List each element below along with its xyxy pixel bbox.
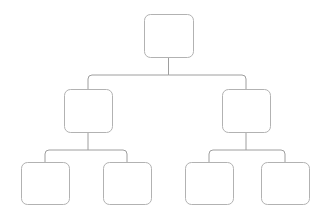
node-leaf-2-box[interactable]	[104, 163, 152, 205]
connector-root-to-level2-left	[88, 75, 169, 89]
connector-level2-right-to-leaf-3	[209, 150, 246, 162]
connector-level2-left-to-leaf-2	[88, 150, 127, 162]
node-level2-right-box[interactable]	[223, 90, 271, 133]
connector-level2-right-to-leaf-4	[246, 150, 285, 162]
connector-level2-left-to-leaf-1	[45, 150, 88, 162]
node-leaf-1[interactable]	[22, 163, 70, 205]
tree-diagram	[0, 0, 323, 217]
node-leaf-3[interactable]	[186, 163, 234, 205]
node-leaf-1-box[interactable]	[22, 163, 70, 205]
node-leaf-4[interactable]	[262, 163, 310, 205]
node-leaf-3-box[interactable]	[186, 163, 234, 205]
node-leaf-2[interactable]	[104, 163, 152, 205]
node-root-box[interactable]	[145, 15, 194, 58]
node-root[interactable]	[145, 15, 194, 58]
diagram-canvas	[0, 0, 323, 217]
node-leaf-4-box[interactable]	[262, 163, 310, 205]
connector-root-to-level2-right	[169, 75, 247, 89]
node-level2-left-box[interactable]	[65, 90, 113, 133]
node-group	[22, 15, 310, 205]
node-level2-left[interactable]	[65, 90, 113, 133]
node-level2-right[interactable]	[223, 90, 271, 133]
